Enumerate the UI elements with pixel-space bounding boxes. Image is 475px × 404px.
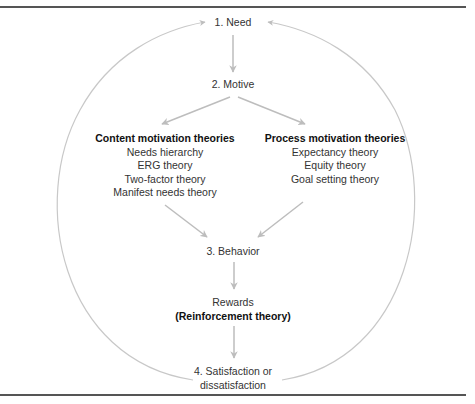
process-theories: Process motivation theories Expectancy t… [240,132,430,186]
node-need: 1. Need [193,16,273,30]
node-motive: 2. Motive [193,78,273,92]
reinforcement-label: (Reinforcement theory) [153,310,313,324]
content-theory-item: Manifest needs theory [70,186,260,200]
node-satisfaction: 4. Satisfaction or dissatisfaction [163,365,303,392]
arrow-content-behavior [165,205,207,237]
process-theory-item: Expectancy theory [240,146,430,160]
cycle-arc-right [268,22,415,380]
cycle-arc-left [57,22,205,380]
arrow-motive-content [162,97,230,124]
content-theory-item: Two-factor theory [70,173,260,187]
process-theory-item: Equity theory [240,159,430,173]
satisfaction-line1: 4. Satisfaction or [163,365,303,379]
node-rewards: Rewards (Reinforcement theory) [153,296,313,323]
diagram-arrows [0,0,475,404]
arrow-motive-process [238,97,305,124]
content-theory-item: Needs hierarchy [70,146,260,160]
arrow-process-behavior [258,202,303,237]
content-theories-title: Content motivation theories [70,132,260,146]
satisfaction-line2: dissatisfaction [163,379,303,393]
content-theory-item: ERG theory [70,159,260,173]
process-theories-title: Process motivation theories [240,132,430,146]
rewards-label: Rewards [153,296,313,310]
content-theories: Content motivation theories Needs hierar… [70,132,260,200]
process-theory-item: Goal setting theory [240,173,430,187]
node-behavior: 3. Behavior [183,245,283,259]
